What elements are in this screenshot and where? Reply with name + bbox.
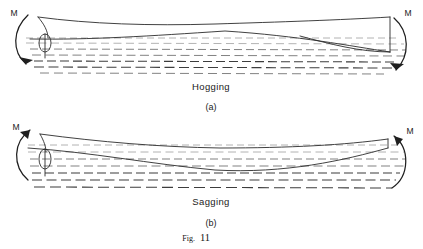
sagging-sublabel: (b) (206, 218, 217, 228)
waterline-5 (34, 61, 398, 62)
sagging-title: Sagging (192, 196, 229, 207)
figure-number-label: Fig. (182, 234, 195, 243)
hogging-left-moment-arc (16, 15, 28, 64)
waterline-7 (40, 73, 384, 74)
sagging-deck-line (40, 134, 388, 148)
hogging-left-moment-arrowhead (19, 57, 33, 64)
waterline-7 (34, 187, 392, 188)
waterline-2 (26, 43, 404, 44)
figure-container: M M Hogging (a) (0, 0, 423, 249)
hogging-title: Hogging (192, 81, 230, 92)
hogging-left-moment-label: M (10, 8, 17, 18)
hogging-right-moment-arrowhead (390, 63, 404, 70)
figure-number: 11 (200, 232, 210, 243)
waterline-3 (30, 49, 406, 50)
sagging-right-moment-label: M (406, 126, 413, 136)
waterline-6 (34, 67, 392, 68)
sagging-waterlines (28, 145, 406, 188)
sagging-left-moment-label: M (12, 122, 19, 132)
hogging-right-moment-label: M (404, 8, 411, 18)
hogging-waterlines (26, 38, 406, 74)
hogging-deck-line (38, 17, 390, 25)
hogging-sublabel: (a) (206, 102, 217, 112)
waterline-4 (32, 55, 404, 56)
fig-11-hogging-sagging-diagram: M M Hogging (a) (0, 0, 423, 249)
panel-sagging: M M Sagging (b) (12, 122, 413, 228)
panel-hogging: M M Hogging (a) (10, 8, 411, 112)
figure-caption: Fig. 11 (182, 232, 210, 243)
